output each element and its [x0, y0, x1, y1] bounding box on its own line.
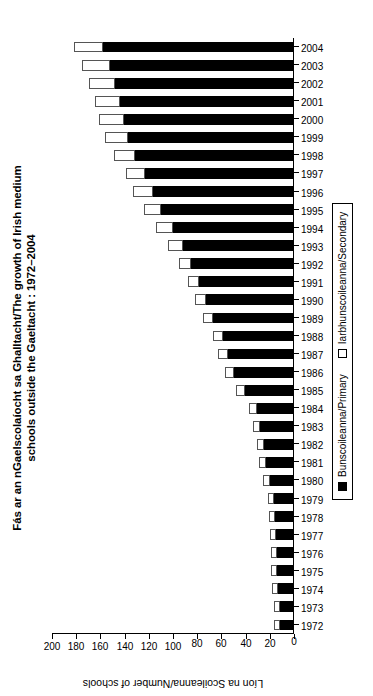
category-label-text: 1999 — [301, 133, 323, 144]
bar-column[interactable] — [114, 150, 293, 161]
bar-segment-secondary — [271, 565, 277, 576]
value-tick-label-text: 60 — [216, 638, 227, 649]
category-label-text: 1992 — [301, 260, 323, 271]
bar-column[interactable] — [272, 583, 293, 594]
value-tick-label-text: 180 — [68, 641, 85, 652]
category-label-text: 1976 — [301, 549, 323, 560]
bar-segment-secondary — [95, 96, 120, 107]
bar-segment-secondary — [271, 547, 277, 558]
bar-column[interactable] — [270, 529, 293, 540]
chart-figure-rotator: Fás ar an nGaelscolaíocht sa Ghalltacht/… — [0, 0, 373, 696]
bar-segment-primary — [120, 96, 293, 107]
category-axis-line — [293, 38, 294, 634]
legend-label-secondary: Iarbhunscoileanna/Secondary — [337, 212, 348, 344]
bar-column[interactable] — [105, 132, 293, 143]
bar-column[interactable] — [156, 222, 293, 233]
category-tick — [294, 624, 299, 625]
bar-column[interactable] — [271, 547, 293, 558]
bar-segment-secondary — [274, 602, 280, 613]
category-label-text: 1987 — [301, 350, 323, 361]
category-label-text: 1980 — [301, 477, 323, 488]
bar-segment-secondary — [269, 511, 275, 522]
bar-column[interactable] — [274, 620, 293, 631]
category-tick — [294, 480, 299, 481]
bar-column[interactable] — [179, 258, 293, 269]
bar-segment-secondary — [168, 240, 183, 251]
value-tick-label: 20 — [264, 638, 275, 649]
bar-segment-primary — [103, 42, 293, 53]
bar-column[interactable] — [188, 276, 293, 287]
bar-segment-primary — [183, 240, 293, 251]
bar-column[interactable] — [195, 294, 293, 305]
category-tick — [294, 371, 299, 372]
bar-segment-secondary — [105, 132, 128, 143]
category-label-text: 1983 — [301, 422, 323, 433]
bar-column[interactable] — [126, 168, 293, 179]
bar-column[interactable] — [268, 493, 293, 504]
bar-column[interactable] — [249, 403, 293, 414]
category-label-text: 1989 — [301, 314, 323, 325]
bar-column[interactable] — [133, 186, 293, 197]
category-tick — [294, 46, 299, 47]
bar-segment-secondary — [126, 168, 145, 179]
bar-column[interactable] — [99, 114, 293, 125]
bar-column[interactable] — [74, 42, 293, 53]
chart-title: Fás ar an nGaelscolaíocht sa Ghalltacht/… — [10, 0, 38, 696]
chart-figure: Fás ar an nGaelscolaíocht sa Ghalltacht/… — [0, 0, 373, 696]
bar-segment-secondary — [236, 385, 244, 396]
bar-column[interactable] — [82, 60, 293, 71]
bar-column[interactable] — [263, 475, 293, 486]
bar-column[interactable] — [274, 602, 293, 613]
bar-segment-secondary — [253, 421, 260, 432]
bar-segment-primary — [278, 583, 293, 594]
bar-segment-primary — [260, 421, 293, 432]
bar-column[interactable] — [259, 457, 293, 468]
bar-segment-secondary — [218, 349, 228, 360]
bar-column[interactable] — [144, 204, 293, 215]
bar-segment-secondary — [89, 78, 116, 89]
bar-column[interactable] — [203, 313, 293, 324]
bar-column[interactable] — [95, 96, 293, 107]
bar-column[interactable] — [257, 439, 293, 450]
y-axis-title: Líon na Scoileanna/Number of schools — [83, 678, 263, 690]
bar-column[interactable] — [225, 367, 293, 378]
category-tick — [294, 606, 299, 607]
bar-column[interactable] — [213, 331, 293, 342]
bar-segment-secondary — [203, 313, 213, 324]
category-tick — [294, 172, 299, 173]
category-label-text: 1972 — [301, 621, 323, 632]
category-label-text: 1986 — [301, 368, 323, 379]
legend-item-primary: Bunscoileanna/Primary — [337, 374, 348, 491]
value-tick-label-text: 140 — [116, 641, 133, 652]
category-label-text: 1995 — [301, 206, 323, 217]
bar-column[interactable] — [271, 565, 293, 576]
bar-column[interactable] — [218, 349, 293, 360]
bar-segment-primary — [266, 457, 293, 468]
bar-segment-primary — [276, 529, 293, 540]
bar-column[interactable] — [236, 385, 293, 396]
category-tick — [294, 425, 299, 426]
value-tick-label-text: 100 — [165, 641, 182, 652]
category-label-text: 1988 — [301, 332, 323, 343]
category-label-text: 1984 — [301, 404, 323, 415]
category-label-text: 1990 — [301, 296, 323, 307]
category-label-text: 1997 — [301, 169, 323, 180]
value-tick-label: 180 — [71, 638, 82, 655]
bar-segment-secondary — [272, 583, 278, 594]
bar-segment-secondary — [259, 457, 266, 468]
bar-segment-primary — [135, 150, 294, 161]
bar-segment-primary — [124, 114, 293, 125]
category-tick — [294, 191, 299, 192]
value-tick-label-text: 200 — [44, 641, 61, 652]
bar-segment-primary — [277, 547, 293, 558]
bar-column[interactable] — [269, 511, 293, 522]
bar-segment-secondary — [195, 294, 206, 305]
bar-segment-primary — [274, 493, 293, 504]
bar-column[interactable] — [168, 240, 293, 251]
category-label-text: 1996 — [301, 188, 323, 199]
category-label-text: 1998 — [301, 151, 323, 162]
bar-column[interactable] — [253, 421, 293, 432]
chart-title-line-2: schools outside the Gaeltacht : 1972–200… — [24, 0, 38, 696]
bar-column[interactable] — [89, 78, 293, 89]
category-tick — [294, 570, 299, 571]
